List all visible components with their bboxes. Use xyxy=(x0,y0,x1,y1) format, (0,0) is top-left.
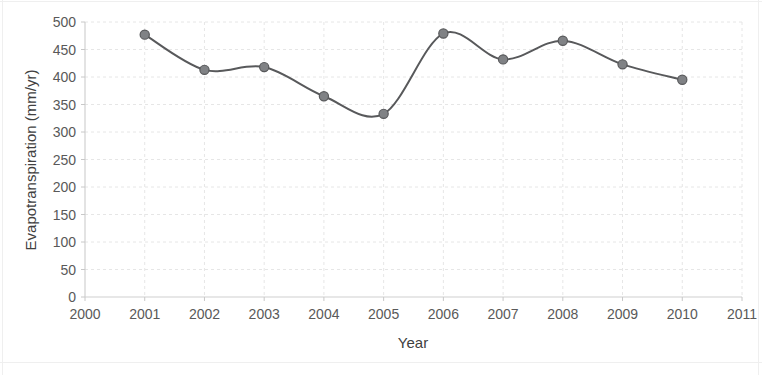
y-tick-label: 100 xyxy=(53,234,77,250)
y-tick-label: 150 xyxy=(53,207,77,223)
data-point-marker xyxy=(558,36,567,45)
chart-figure: 050100150200250300350400450500 200020012… xyxy=(0,0,762,375)
line-chart-plot: 050100150200250300350400450500 200020012… xyxy=(0,0,762,375)
x-tick-label: 2000 xyxy=(69,306,100,322)
x-tick-label: 2003 xyxy=(249,306,280,322)
x-tick-label: 2004 xyxy=(308,306,339,322)
x-tick-labels: 2000200120022003200420052006200720082009… xyxy=(69,306,757,322)
data-point-marker xyxy=(678,75,687,84)
y-tick-labels: 050100150200250300350400450500 xyxy=(53,14,77,305)
data-point-marker xyxy=(260,63,269,72)
data-point-marker xyxy=(319,92,328,101)
y-axis-title: Evapotranspiration (mm/yr) xyxy=(22,70,39,251)
y-tick-label: 300 xyxy=(53,124,77,140)
data-point-marker xyxy=(379,109,388,118)
x-gridlines xyxy=(145,22,742,297)
x-tick-label: 2006 xyxy=(428,306,459,322)
y-tick-label: 350 xyxy=(53,97,77,113)
data-point-marker xyxy=(439,29,448,38)
y-tick-label: 450 xyxy=(53,42,77,58)
data-point-marker xyxy=(140,30,149,39)
y-tick-label: 0 xyxy=(68,289,76,305)
x-tick-label: 2010 xyxy=(667,306,698,322)
x-tick-label: 2005 xyxy=(368,306,399,322)
x-tick-label: 2007 xyxy=(488,306,519,322)
x-tick-label: 2008 xyxy=(547,306,578,322)
y-tick-label: 50 xyxy=(60,262,76,278)
x-tick-label: 2011 xyxy=(727,306,757,322)
y-tick-label: 200 xyxy=(53,179,77,195)
data-point-marker xyxy=(200,65,209,74)
x-tick-label: 2001 xyxy=(129,306,160,322)
x-tick-label: 2009 xyxy=(607,306,638,322)
x-axis-title: Year xyxy=(398,334,428,351)
y-tick-label: 250 xyxy=(53,152,77,168)
y-tick-label: 400 xyxy=(53,69,77,85)
data-point-marker xyxy=(618,60,627,69)
x-tick-label: 2002 xyxy=(189,306,220,322)
y-tick-label: 500 xyxy=(53,14,77,30)
data-point-marker xyxy=(498,55,507,64)
